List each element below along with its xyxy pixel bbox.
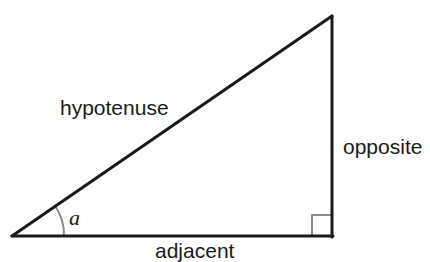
hypotenuse-label: hypotenuse — [60, 97, 169, 118]
adjacent-label: adjacent — [155, 240, 234, 261]
hypotenuse-side — [12, 16, 332, 236]
angle-label: a — [69, 207, 80, 229]
right-angle-marker — [312, 215, 332, 236]
opposite-label: opposite — [343, 136, 422, 157]
triangle-diagram: hypotenuse opposite adjacent a — [0, 0, 430, 262]
angle-arc — [55, 205, 65, 236]
triangle-svg — [0, 0, 430, 262]
